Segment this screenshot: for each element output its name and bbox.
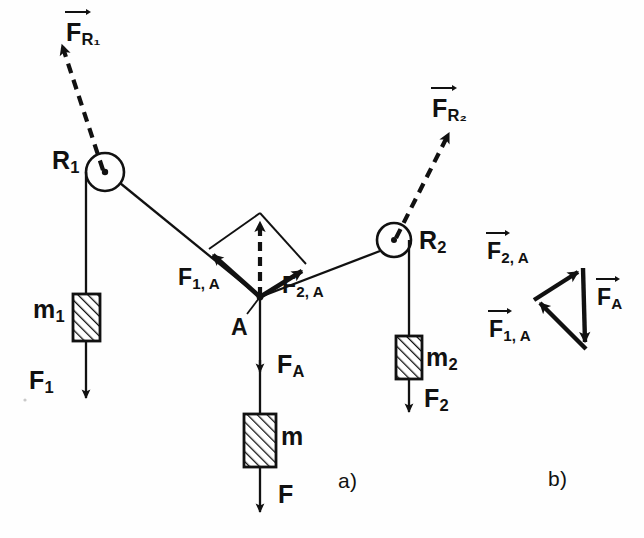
triangle-vector-F1A (540, 303, 586, 349)
mass-block-m1 (73, 294, 100, 342)
label-force-2A: F2, A (282, 274, 324, 297)
panel-label-a: a) (338, 470, 357, 491)
label-triangle-force-A: FA (597, 286, 622, 309)
label-mass-2: m2 (426, 345, 458, 370)
physics-force-diagram: FR₁ R1 m1 F1 FR₂ R2 m2 F2 F1, A F2, A A … (0, 0, 644, 538)
label-force-2: F2 (424, 386, 449, 411)
label-force-1: F1 (29, 368, 54, 393)
vector-F1A (213, 255, 260, 297)
scan-artifact (23, 398, 26, 401)
label-force-1A: F1, A (178, 266, 220, 289)
label-triangle-force-2A: F2, A (487, 240, 529, 263)
label-force-pulley-1: FR₁ (66, 20, 100, 45)
diagram-canvas (0, 0, 644, 538)
pulley-R1 (86, 153, 124, 191)
parallelogram-construction (209, 213, 306, 264)
pulley-R2 (377, 223, 411, 257)
mass-block-m (244, 414, 276, 468)
panel-label-b: b) (548, 468, 567, 489)
vector-F-R2 (396, 133, 449, 238)
triangle-vector-F2A (534, 272, 578, 300)
label-force-A: FA (277, 352, 305, 377)
label-mass-center: m (281, 424, 304, 449)
label-pulley-2: R2 (419, 228, 447, 253)
label-mass-1: m1 (33, 297, 65, 322)
label-triangle-force-1A: F1, A (489, 318, 531, 341)
label-pulley-1: R1 (52, 148, 80, 173)
label-force-pulley-2: FR₂ (432, 96, 467, 121)
label-point-A: A (231, 316, 248, 339)
triangle-vector-FA (583, 268, 585, 342)
mass-block-m2 (396, 336, 422, 379)
label-force-bottom: F (278, 482, 294, 507)
